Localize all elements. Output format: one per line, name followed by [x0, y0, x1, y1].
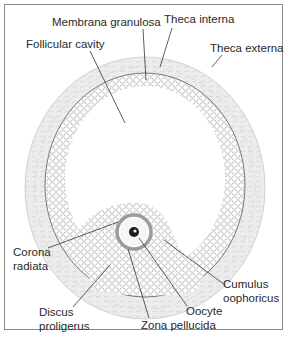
- label-membrana-granulosa: Membrana granulosa: [52, 16, 161, 30]
- label-discus-proligerus: Discus proligerus: [39, 306, 90, 333]
- label-cumulus-oophoricus: Cumulus oophoricus: [223, 278, 279, 305]
- label-corona-radiata: Corona radiata: [13, 246, 51, 273]
- label-follicular-cavity: Follicular cavity: [26, 38, 105, 52]
- label-theca-externa: Theca externa: [210, 42, 284, 56]
- label-oocyte: Oocyte: [186, 305, 222, 319]
- label-zona-pellucida: Zona pellucida: [141, 319, 216, 333]
- oocyte: [117, 215, 151, 249]
- label-theca-interna: Theca interna: [164, 13, 234, 27]
